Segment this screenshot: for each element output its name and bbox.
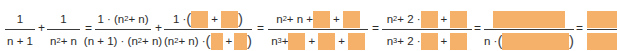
- blank-input[interactable]: [421, 11, 438, 28]
- blank-input[interactable]: [318, 33, 335, 50]
- numerator: 1 · (n2 + n): [95, 9, 151, 29]
- equals-sign: =: [576, 21, 583, 35]
- fraction-factored-blanks: n · (): [484, 0, 574, 51]
- numerator: 1: [5, 9, 35, 29]
- fraction-bar: [164, 29, 252, 30]
- fraction-bar: [587, 29, 617, 30]
- fraction-bar: [382, 29, 472, 30]
- fraction-bar: [5, 29, 35, 30]
- numerator: 1 · (+): [164, 9, 252, 29]
- blank-input[interactable]: [502, 33, 569, 50]
- blank-input[interactable]: [450, 33, 467, 50]
- fraction-bar: [484, 29, 574, 30]
- denominator: n3 + 2 · +: [382, 31, 472, 51]
- fraction-bar: [268, 29, 368, 30]
- equals-sign: =: [372, 21, 379, 35]
- fraction-1-over-n2-plus-n: 1 n2 + n: [47, 0, 80, 51]
- denominator: [587, 31, 617, 51]
- fraction-common-denominator-1: 1 · (n2 + n) (n + 1) · (n2 + n): [95, 0, 151, 51]
- fraction-bar: [95, 29, 151, 30]
- denominator: n3 + ++: [268, 31, 368, 51]
- blank-input[interactable]: [343, 11, 360, 28]
- fraction-with-blanks-1: 1 · (+) (n2 + n) · (+): [164, 0, 252, 51]
- denominator: n2 + n: [47, 31, 80, 51]
- equals-sign: =: [257, 21, 264, 35]
- plus-sign: +: [38, 21, 45, 35]
- blank-input[interactable]: [313, 11, 330, 28]
- denominator: (n + 1) · (n2 + n): [95, 31, 151, 51]
- blank-input[interactable]: [234, 33, 247, 50]
- numerator: n2 + 2 · +: [382, 9, 472, 29]
- blank-input[interactable]: [348, 33, 365, 50]
- numerator: n2 + n + +: [268, 9, 368, 29]
- equals-sign: =: [474, 21, 481, 35]
- denominator: n + 1: [5, 31, 35, 51]
- numerator: [484, 9, 574, 29]
- fraction-1-over-n-plus-1: 1 n + 1: [5, 0, 35, 51]
- fraction-final-blanks: [587, 0, 617, 51]
- blank-input[interactable]: [288, 33, 305, 50]
- fraction-bar: [47, 29, 80, 30]
- denominator: n · (): [484, 31, 574, 51]
- blank-input[interactable]: [493, 11, 565, 28]
- blank-input[interactable]: [191, 11, 208, 28]
- numerator: [587, 9, 617, 29]
- equals-sign: =: [85, 21, 92, 35]
- fraction-with-blanks-2: n2 + n + + n3 + ++: [268, 0, 368, 51]
- blank-input[interactable]: [587, 33, 617, 50]
- numerator: 1: [47, 9, 80, 29]
- fraction-with-blanks-3: n2 + 2 · + n3 + 2 · +: [382, 0, 472, 51]
- blank-input[interactable]: [450, 11, 467, 28]
- denominator: (n2 + n) · (+): [164, 31, 252, 51]
- plus-sign: +: [155, 21, 162, 35]
- blank-input[interactable]: [211, 33, 224, 50]
- blank-input[interactable]: [421, 33, 438, 50]
- blank-input[interactable]: [587, 11, 617, 28]
- blank-input[interactable]: [221, 11, 238, 28]
